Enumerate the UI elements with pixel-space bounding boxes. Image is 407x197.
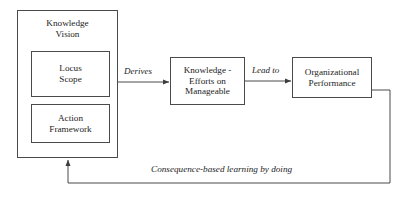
knowledge-vision-title-line2: Vision bbox=[18, 29, 117, 40]
node-organizational-performance-line2: Performance bbox=[309, 78, 356, 89]
node-organizational-performance-line1: Organizational bbox=[305, 67, 359, 78]
node-knowledge-efforts-line1: Knowledge - bbox=[184, 65, 232, 76]
edge-label-derives: Derives bbox=[124, 66, 152, 76]
node-locus-scope: Locus Scope bbox=[31, 51, 110, 97]
edge-label-feedback: Consequence-based learning by doing bbox=[151, 164, 292, 174]
node-locus-scope-line2: Scope bbox=[59, 74, 81, 85]
knowledge-vision-title: Knowledge Vision bbox=[18, 18, 117, 40]
node-organizational-performance: Organizational Performance bbox=[292, 57, 372, 98]
node-knowledge-efforts: Knowledge - Efforts on Manageable bbox=[170, 57, 245, 105]
edge-label-lead-to: Lead to bbox=[252, 65, 279, 75]
node-locus-scope-line1: Locus bbox=[59, 63, 81, 74]
diagram-canvas: Knowledge Vision Locus Scope Action Fram… bbox=[0, 0, 407, 197]
knowledge-vision-title-line1: Knowledge bbox=[18, 18, 117, 29]
node-knowledge-efforts-line2: Efforts on bbox=[189, 76, 226, 87]
node-action-framework: Action Framework bbox=[31, 104, 110, 143]
node-action-framework-line2: Framework bbox=[49, 124, 91, 135]
node-knowledge-efforts-line3: Manageable bbox=[185, 86, 230, 97]
node-action-framework-line1: Action bbox=[58, 113, 83, 124]
